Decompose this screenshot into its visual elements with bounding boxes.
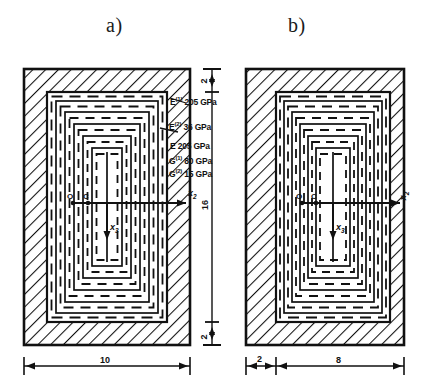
panel-b-axis-x2-label: x2	[398, 192, 410, 201]
dim-vertical-middle-label: 16	[200, 200, 210, 210]
panel-b-section	[246, 69, 404, 345]
dim-a-left-arrow	[26, 363, 35, 370]
panel-b-width-dimension	[246, 357, 404, 375]
dim-arrow-bottom-up	[209, 332, 215, 340]
cross-section-drawing	[0, 0, 434, 389]
panel-a-centroid-marker	[86, 201, 91, 206]
dim-b-left-arrow	[248, 363, 257, 370]
dim-arrow-top-up	[209, 79, 215, 87]
panel-title-a: a)	[106, 14, 123, 37]
panel-b-axis-x3-label: x3	[336, 222, 345, 234]
panel-b-centroid-marker	[314, 201, 319, 206]
dim-b-width-label: 8	[336, 355, 341, 365]
dim-a-width-label: 10	[100, 355, 110, 365]
dim-a-right-arrow	[179, 363, 188, 370]
dim-b-wall-label: 2	[257, 354, 262, 364]
dim-vertical-top-label: 2	[199, 78, 209, 83]
panel-a-section	[24, 69, 190, 345]
panel-a-origin-label: O	[67, 192, 73, 201]
dim-b-mid-arrow-left	[265, 363, 274, 370]
panel-a-centroid-label: C	[83, 192, 89, 201]
material-label-5: G(2) 15 GPa	[169, 168, 212, 179]
material-label-3: E 205 GPa	[170, 141, 210, 151]
panel-a-axis-x3-label: x3	[110, 222, 119, 234]
dim-b-mid-arrow-right	[278, 363, 287, 370]
material-label-4: G(1) 80 GPa	[169, 155, 212, 166]
panel-a-origin-marker	[71, 201, 76, 206]
panel-b-origin-marker	[300, 201, 305, 206]
panel-a-axis-x2-label: x2	[188, 188, 197, 200]
panel-b-origin-label: O	[296, 192, 302, 201]
panel-title-b: b)	[288, 14, 306, 37]
dim-b-right-arrow	[393, 363, 402, 370]
panel-b-centroid-label: C	[311, 192, 317, 201]
figure-canvas: a) b)	[0, 0, 434, 389]
material-label-2: E(2) 36 GPa	[169, 121, 211, 132]
dim-vertical-bottom-label: 2	[199, 334, 209, 339]
material-label-1: E(1) 205 GPa	[170, 96, 217, 107]
